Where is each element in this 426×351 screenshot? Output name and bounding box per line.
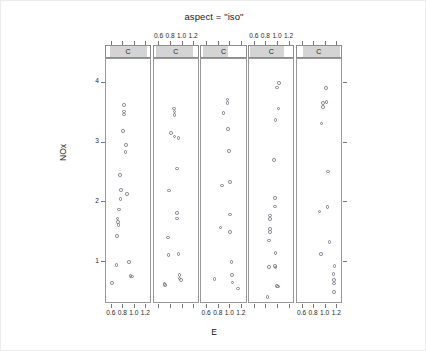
data-point bbox=[236, 287, 240, 291]
x-tick-label-bottom: 0.8 bbox=[118, 310, 127, 317]
data-point bbox=[178, 273, 182, 277]
y-tick-left bbox=[101, 201, 105, 202]
x-tick-bottom bbox=[325, 304, 326, 308]
data-point bbox=[167, 253, 171, 257]
data-point bbox=[122, 103, 126, 107]
x-tick-label-bottom: 0.6 bbox=[202, 310, 211, 317]
x-tick-label-bottom: 0.8 bbox=[213, 310, 222, 317]
x-tick-bottom bbox=[254, 304, 255, 308]
data-point bbox=[277, 81, 281, 85]
panel-strip-1: C bbox=[105, 45, 151, 58]
data-point bbox=[175, 167, 179, 171]
x-tick-label-bottom: 1.0 bbox=[129, 310, 138, 317]
x-tick-bottom bbox=[170, 304, 171, 308]
x-tick-label-top: 0.6 bbox=[154, 33, 163, 40]
data-point bbox=[268, 217, 272, 221]
strip-label: C bbox=[106, 46, 150, 57]
strip-label: C bbox=[249, 46, 293, 57]
x-tick-label-top: 0.8 bbox=[261, 33, 270, 40]
x-tick-bottom bbox=[313, 304, 314, 308]
data-point bbox=[177, 136, 181, 140]
panel-2 bbox=[153, 58, 199, 303]
y-tick-label: 4 bbox=[95, 78, 99, 85]
data-point bbox=[121, 129, 125, 133]
data-point bbox=[332, 272, 336, 276]
x-tick-label-top: 1.2 bbox=[189, 33, 198, 40]
data-point bbox=[324, 86, 328, 90]
data-point bbox=[167, 189, 171, 193]
y-tick-right bbox=[343, 201, 347, 202]
data-point bbox=[118, 173, 122, 177]
x-tick-label-top: 0.8 bbox=[165, 33, 174, 40]
strip-label: C bbox=[201, 46, 245, 57]
data-point bbox=[166, 236, 170, 240]
data-point bbox=[177, 252, 181, 256]
data-point bbox=[169, 131, 173, 135]
data-point bbox=[268, 230, 272, 234]
data-point bbox=[277, 107, 281, 111]
data-point bbox=[179, 278, 183, 282]
x-tick-top bbox=[111, 41, 112, 45]
x-tick-top bbox=[134, 41, 135, 45]
data-point bbox=[267, 265, 271, 269]
x-tick-bottom bbox=[182, 304, 183, 308]
data-point bbox=[321, 105, 325, 109]
x-tick-top bbox=[193, 41, 194, 45]
chart-canvas: aspect = "iso" CCCCC 0.60.81.01.20.60.81… bbox=[0, 0, 426, 351]
data-point bbox=[332, 290, 336, 294]
data-point bbox=[276, 285, 280, 289]
x-tick-bottom bbox=[218, 304, 219, 308]
panel-strip-4: C bbox=[248, 45, 294, 58]
data-point bbox=[124, 150, 128, 154]
data-point bbox=[326, 170, 330, 174]
x-tick-bottom bbox=[336, 304, 337, 308]
data-point bbox=[173, 113, 177, 117]
data-point bbox=[122, 113, 126, 117]
data-point bbox=[228, 213, 232, 217]
x-tick-top bbox=[302, 41, 303, 45]
x-tick-label-bottom: 0.6 bbox=[297, 310, 306, 317]
x-tick-label-bottom: 1.2 bbox=[141, 310, 150, 317]
x-tick-top bbox=[265, 41, 266, 45]
data-point bbox=[320, 122, 324, 126]
y-tick-label: 1 bbox=[95, 258, 99, 265]
x-tick-label-bottom: 0.8 bbox=[309, 310, 318, 317]
data-point bbox=[127, 260, 131, 264]
data-point bbox=[266, 295, 270, 299]
x-tick-label-bottom: 1.2 bbox=[332, 310, 341, 317]
data-point bbox=[274, 251, 278, 255]
data-point bbox=[273, 205, 277, 209]
x-tick-bottom bbox=[277, 304, 278, 308]
data-point bbox=[163, 283, 167, 287]
x-tick-top bbox=[241, 41, 242, 45]
y-tick-left bbox=[101, 142, 105, 143]
y-tick-right bbox=[343, 261, 347, 262]
x-tick-top bbox=[158, 41, 159, 45]
data-point bbox=[227, 149, 231, 153]
x-tick-top bbox=[122, 41, 123, 45]
x-tick-bottom bbox=[193, 304, 194, 308]
data-point bbox=[110, 281, 114, 285]
x-tick-bottom bbox=[111, 304, 112, 308]
x-tick-label-top: 0.6 bbox=[249, 33, 258, 40]
x-tick-bottom bbox=[206, 304, 207, 308]
x-axis-label: E bbox=[1, 327, 426, 337]
data-point bbox=[275, 86, 279, 90]
y-tick-left bbox=[101, 82, 105, 83]
x-tick-top bbox=[206, 41, 207, 45]
x-tick-top bbox=[218, 41, 219, 45]
x-tick-bottom bbox=[134, 304, 135, 308]
panel-5 bbox=[296, 58, 342, 303]
panel-strip-2: C bbox=[153, 45, 199, 58]
data-point bbox=[125, 192, 129, 196]
data-point bbox=[115, 263, 119, 267]
data-point bbox=[175, 211, 179, 215]
y-tick-label: 2 bbox=[95, 198, 99, 205]
panel-3 bbox=[200, 58, 246, 303]
data-point bbox=[130, 275, 134, 279]
data-point bbox=[220, 184, 224, 188]
x-tick-bottom bbox=[158, 304, 159, 308]
y-tick-right bbox=[343, 82, 347, 83]
strip-label: C bbox=[154, 46, 198, 57]
y-tick-left bbox=[101, 261, 105, 262]
